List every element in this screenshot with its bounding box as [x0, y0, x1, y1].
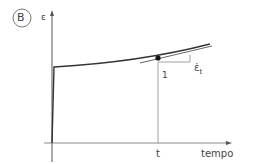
- y-axis-arrow-icon: [50, 10, 54, 16]
- tangent-point: [155, 55, 160, 60]
- tangent-line: [140, 46, 212, 63]
- x-axis-label: tempo: [201, 149, 233, 159]
- creep-curve: [52, 44, 210, 143]
- slope-rate-label: ε̇t: [194, 63, 202, 76]
- y-axis-label: ε: [41, 13, 46, 22]
- x-marker-label: t: [156, 149, 160, 159]
- strain-time-diagram: [0, 0, 253, 164]
- panel-label: B: [17, 12, 25, 23]
- x-axis-arrow-icon: [226, 141, 232, 145]
- slope-run-label: 1: [162, 71, 168, 80]
- slope-triangle: [158, 55, 190, 62]
- slope-rate-subscript: t: [199, 68, 202, 76]
